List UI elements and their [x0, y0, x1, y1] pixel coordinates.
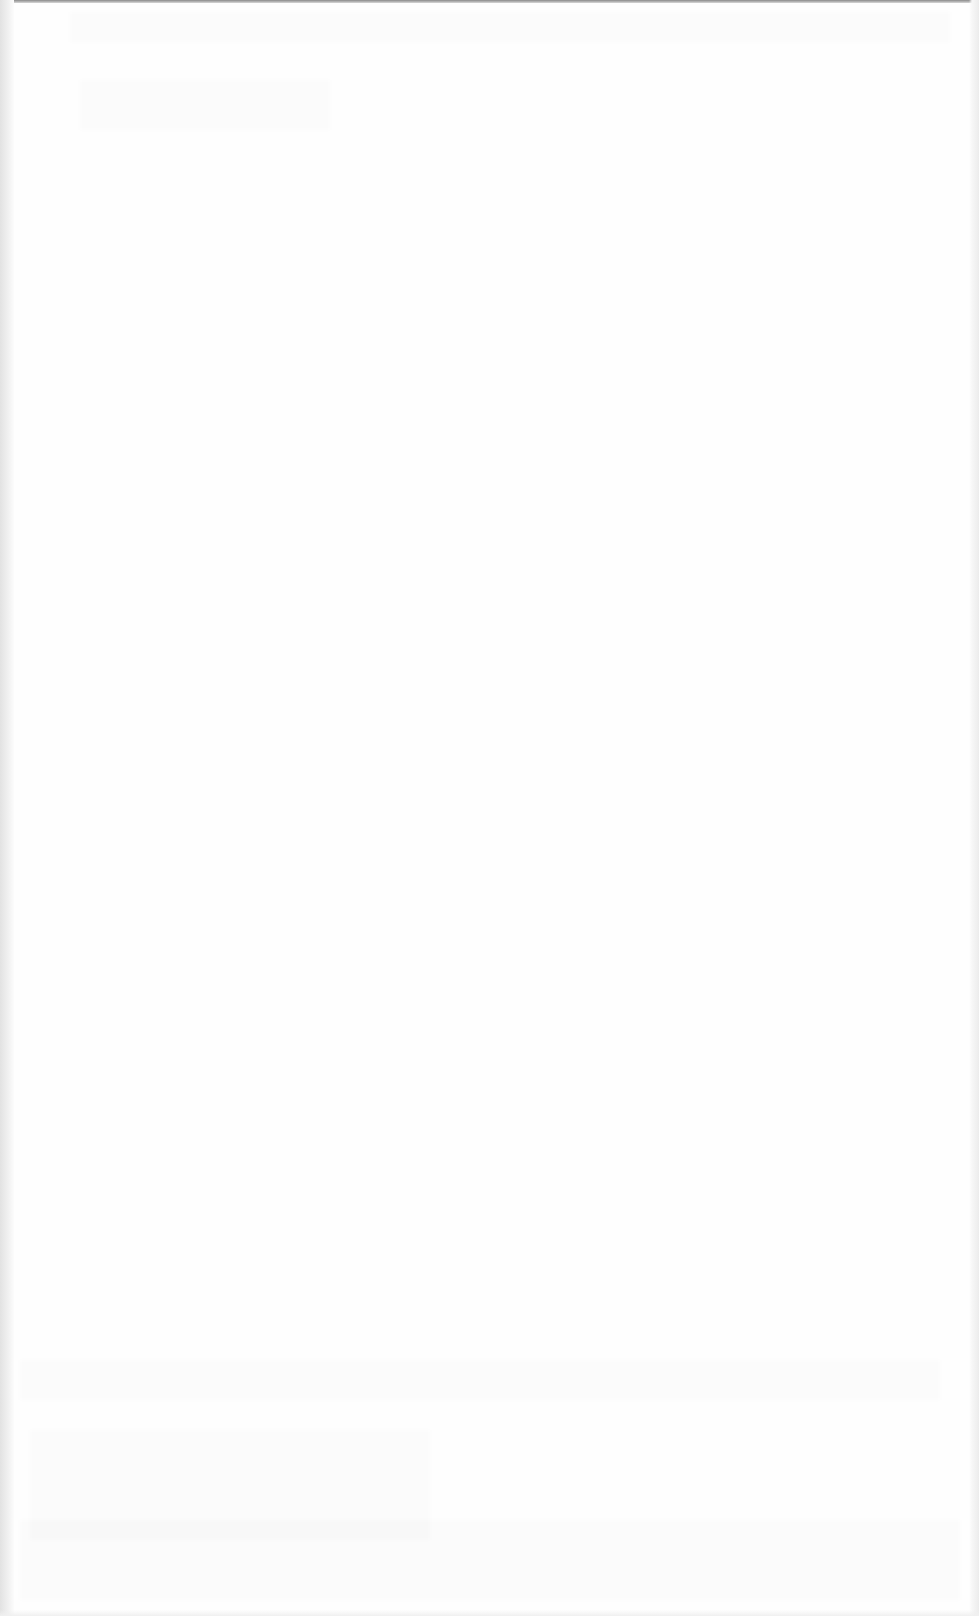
page-bottom-edge — [0, 1610, 979, 1616]
blank-scanned-page — [0, 0, 979, 1616]
page-right-edge — [969, 0, 979, 1616]
show-through-artifact — [80, 80, 330, 130]
page-gutter-shadow — [0, 0, 14, 1616]
page-top-border — [0, 0, 979, 3]
show-through-artifact — [20, 1520, 960, 1600]
show-through-artifact — [20, 1360, 940, 1400]
show-through-artifact — [70, 12, 950, 42]
